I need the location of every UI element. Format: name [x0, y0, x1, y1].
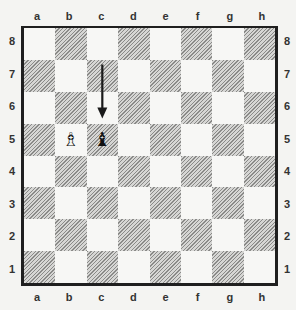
square-c6[interactable]	[87, 92, 118, 124]
square-g8[interactable]	[212, 28, 243, 60]
square-d8[interactable]	[118, 28, 149, 60]
square-e8[interactable]	[150, 28, 181, 60]
square-e2[interactable]	[150, 219, 181, 251]
rank-label-4-left: 4	[5, 165, 19, 177]
square-a5[interactable]	[24, 124, 55, 156]
square-c4[interactable]	[87, 156, 118, 188]
square-a3[interactable]	[24, 187, 55, 219]
square-a8[interactable]	[24, 28, 55, 60]
square-b8[interactable]	[55, 28, 86, 60]
square-h7[interactable]	[244, 60, 275, 92]
square-f1[interactable]	[181, 251, 212, 283]
file-label-c-top: c	[85, 10, 117, 22]
rank-label-1-left: 1	[5, 263, 19, 275]
file-label-c-bottom: c	[85, 291, 117, 303]
square-g3[interactable]	[212, 187, 243, 219]
square-f4[interactable]	[181, 156, 212, 188]
square-d6[interactable]	[118, 92, 149, 124]
square-b3[interactable]	[55, 187, 86, 219]
square-a1[interactable]	[24, 251, 55, 283]
square-f3[interactable]	[181, 187, 212, 219]
file-label-f-top: f	[182, 10, 214, 22]
square-d7[interactable]	[118, 60, 149, 92]
file-label-g-bottom: g	[214, 291, 246, 303]
square-c8[interactable]	[87, 28, 118, 60]
square-a4[interactable]	[24, 156, 55, 188]
square-h3[interactable]	[244, 187, 275, 219]
rank-label-7-left: 7	[5, 68, 19, 80]
square-e3[interactable]	[150, 187, 181, 219]
square-e6[interactable]	[150, 92, 181, 124]
square-h8[interactable]	[244, 28, 275, 60]
file-label-h-top: h	[246, 10, 278, 22]
square-b4[interactable]	[55, 156, 86, 188]
file-label-e-top: e	[150, 10, 182, 22]
rank-label-2-right: 2	[280, 230, 294, 242]
square-d5[interactable]	[118, 124, 149, 156]
square-c5[interactable]: ♝	[87, 124, 118, 156]
square-b7[interactable]	[55, 60, 86, 92]
square-g2[interactable]	[212, 219, 243, 251]
black-bishop-icon[interactable]: ♝	[87, 124, 118, 156]
rank-label-4-right: 4	[280, 165, 294, 177]
square-h1[interactable]	[244, 251, 275, 283]
rank-label-5-left: 5	[5, 133, 19, 145]
square-h5[interactable]	[244, 124, 275, 156]
white-bishop-icon[interactable]: ♗	[55, 124, 86, 156]
rank-label-3-right: 3	[280, 198, 294, 210]
rank-label-6-left: 6	[5, 100, 19, 112]
file-label-h-bottom: h	[246, 291, 278, 303]
file-label-b-top: b	[53, 10, 85, 22]
square-c3[interactable]	[87, 187, 118, 219]
square-f8[interactable]	[181, 28, 212, 60]
square-c1[interactable]	[87, 251, 118, 283]
square-f2[interactable]	[181, 219, 212, 251]
square-e4[interactable]	[150, 156, 181, 188]
file-label-a-bottom: a	[21, 291, 53, 303]
square-h4[interactable]	[244, 156, 275, 188]
square-e7[interactable]	[150, 60, 181, 92]
file-label-d-bottom: d	[117, 291, 149, 303]
square-f5[interactable]	[181, 124, 212, 156]
square-a7[interactable]	[24, 60, 55, 92]
square-b5[interactable]: ♗	[55, 124, 86, 156]
file-label-a-top: a	[21, 10, 53, 22]
square-d1[interactable]	[118, 251, 149, 283]
square-d4[interactable]	[118, 156, 149, 188]
file-label-e-bottom: e	[150, 291, 182, 303]
rank-label-6-right: 6	[280, 100, 294, 112]
square-g1[interactable]	[212, 251, 243, 283]
square-d3[interactable]	[118, 187, 149, 219]
square-f7[interactable]	[181, 60, 212, 92]
rank-label-5-right: 5	[280, 133, 294, 145]
square-a6[interactable]	[24, 92, 55, 124]
rank-label-8-right: 8	[280, 35, 294, 47]
square-e1[interactable]	[150, 251, 181, 283]
rank-label-3-left: 3	[5, 198, 19, 210]
square-g5[interactable]	[212, 124, 243, 156]
rank-label-7-right: 7	[280, 68, 294, 80]
square-f6[interactable]	[181, 92, 212, 124]
file-label-d-top: d	[117, 10, 149, 22]
square-c2[interactable]	[87, 219, 118, 251]
rank-label-8-left: 8	[5, 35, 19, 47]
square-h2[interactable]	[244, 219, 275, 251]
square-b6[interactable]	[55, 92, 86, 124]
square-g6[interactable]	[212, 92, 243, 124]
chess-board: ♗♝	[21, 26, 278, 286]
square-c7[interactable]	[87, 60, 118, 92]
file-label-g-top: g	[214, 10, 246, 22]
square-b1[interactable]	[55, 251, 86, 283]
file-label-f-bottom: f	[182, 291, 214, 303]
square-h6[interactable]	[244, 92, 275, 124]
file-label-b-bottom: b	[53, 291, 85, 303]
square-d2[interactable]	[118, 219, 149, 251]
rank-label-2-left: 2	[5, 230, 19, 242]
square-g7[interactable]	[212, 60, 243, 92]
square-g4[interactable]	[212, 156, 243, 188]
square-b2[interactable]	[55, 219, 86, 251]
rank-label-1-right: 1	[280, 263, 294, 275]
square-a2[interactable]	[24, 219, 55, 251]
square-e5[interactable]	[150, 124, 181, 156]
